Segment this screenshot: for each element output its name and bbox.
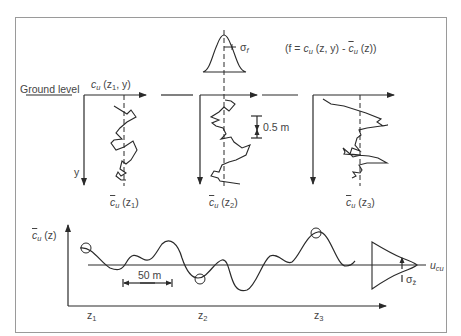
scale-label: 0.5 m (263, 122, 289, 133)
distance-label: 50 m (138, 270, 161, 281)
profile-2-mean-label: cu (z2) (209, 197, 238, 210)
x-tick-z1: z1 (87, 310, 96, 323)
profile-1-axis-label: cu (z1, y) (91, 79, 131, 92)
x-tick-z2: z2 (198, 310, 207, 323)
sigma-z-label: σz̄ (406, 274, 416, 287)
profile-1-mean-label: cu (z1) (110, 197, 139, 210)
ground-level-label: Ground level (20, 84, 80, 95)
profile-2 (200, 30, 262, 186)
x-tick-z3: z3 (314, 310, 323, 323)
spatial-variation-chart (68, 225, 426, 306)
fluctuation-formula: (f = cu (z, y) - cu (z)) (285, 43, 376, 56)
depth-axis-label: y (74, 167, 79, 178)
profile-3-mean-label: cu (z3) (346, 197, 375, 210)
profile-1 (84, 95, 146, 186)
sigma-f-label: σf (240, 42, 249, 55)
mean-u-label: ucu (430, 260, 444, 273)
profile-3 (313, 95, 394, 186)
mean-strength-curve (80, 232, 355, 291)
bottom-y-axis-label: cu (z) (32, 230, 57, 243)
diagram-canvas (0, 0, 461, 336)
